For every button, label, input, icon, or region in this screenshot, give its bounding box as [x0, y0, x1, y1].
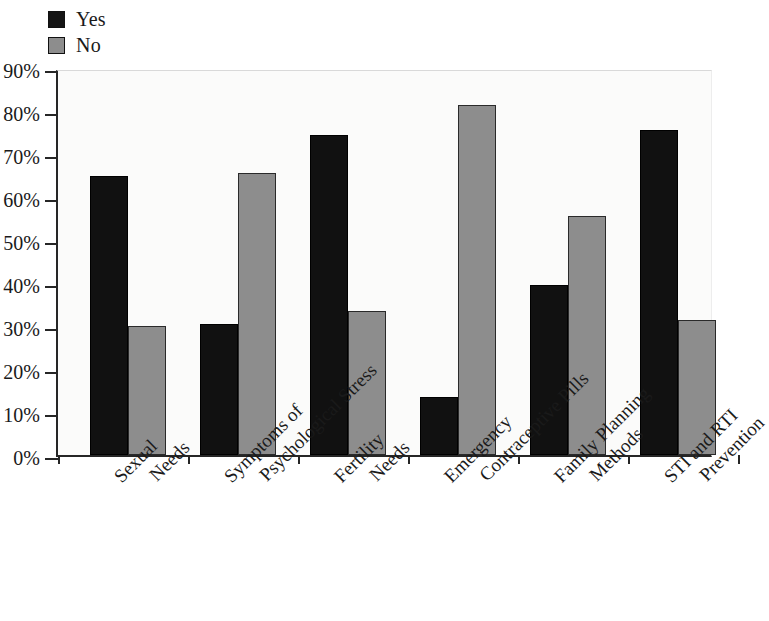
y-axis-tick [45, 415, 58, 417]
y-axis-tick-label: 90% [0, 61, 40, 81]
y-axis-tick [45, 71, 58, 73]
legend-label-yes: Yes [76, 9, 106, 29]
y-axis-tick-label: 60% [0, 190, 40, 210]
y-axis-tick-label: 70% [0, 147, 40, 167]
bar-yes [200, 324, 238, 455]
y-axis-tick-label: 20% [0, 362, 40, 382]
bar-yes [530, 285, 568, 455]
legend-swatch-black-icon [48, 11, 65, 28]
x-axis-tick [188, 455, 190, 464]
bar-yes [310, 135, 348, 455]
y-axis-tick-label: 10% [0, 405, 40, 425]
y-axis-tick [45, 114, 58, 116]
bar-no [128, 326, 166, 455]
bar-no [568, 216, 606, 455]
bar-yes [420, 397, 458, 455]
x-axis-tick-origin [58, 455, 60, 464]
y-axis-tick [45, 200, 58, 202]
bar-yes [640, 130, 678, 455]
bar-no [458, 105, 496, 455]
y-axis-tick-label: 0% [0, 448, 40, 468]
bar-no [348, 311, 386, 455]
legend-label-no: No [76, 35, 101, 55]
y-axis-tick [45, 157, 58, 159]
x-axis-tick [738, 455, 740, 464]
bar-yes [90, 176, 128, 456]
plot-area: 0%10%20%30%40%50%60%70%80%90% [56, 70, 712, 457]
y-axis-tick [45, 458, 58, 460]
y-axis-tick [45, 286, 58, 288]
y-axis-tick [45, 243, 58, 245]
x-axis-tick [628, 455, 630, 464]
legend-swatch-gray-icon [48, 37, 65, 54]
chart-legend: Yes No [48, 6, 228, 58]
y-axis-tick-label: 80% [0, 104, 40, 124]
legend-item-no: No [48, 32, 228, 58]
bars-layer [58, 71, 711, 455]
bar-no [678, 320, 716, 455]
y-axis-tick [45, 329, 58, 331]
y-axis-tick-label: 30% [0, 319, 40, 339]
x-axis-tick [298, 455, 300, 464]
bar-no [238, 173, 276, 455]
y-axis-tick [45, 372, 58, 374]
y-axis-tick-label: 50% [0, 233, 40, 253]
y-axis-tick-label: 40% [0, 276, 40, 296]
x-axis-tick [408, 455, 410, 464]
legend-item-yes: Yes [48, 6, 228, 32]
x-axis-tick [518, 455, 520, 464]
